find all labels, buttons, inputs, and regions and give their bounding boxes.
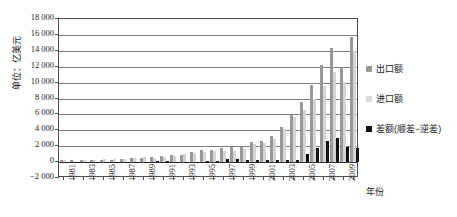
x-tick-mark xyxy=(113,177,114,180)
y-tick-label: −2 000 xyxy=(6,171,54,181)
x-tick-mark xyxy=(243,177,244,180)
x-tick-mark xyxy=(293,177,294,180)
x-tick-mark xyxy=(203,177,204,180)
x-tick-mark xyxy=(63,177,64,180)
bar-group xyxy=(169,19,179,176)
y-tick-label: 18 000 xyxy=(6,12,54,22)
x-tick-label: 2003 xyxy=(287,164,297,181)
bar-group xyxy=(229,19,239,176)
x-tick-mark xyxy=(353,177,354,180)
x-tick-mark xyxy=(133,177,134,180)
bar-group xyxy=(299,19,309,176)
balance-swatch xyxy=(366,126,372,132)
legend-label-import: 进口额 xyxy=(376,92,403,105)
bar-group xyxy=(349,19,359,176)
legend-item-balance: 差额(顺差−逆差) xyxy=(366,122,441,135)
x-tick-label: 1983 xyxy=(87,164,97,181)
y-tick-label: 0 xyxy=(6,155,54,165)
x-tick-label: 2007 xyxy=(327,164,337,181)
x-tick-mark xyxy=(263,177,264,180)
bar-import xyxy=(353,51,356,162)
x-tick-label: 1999 xyxy=(247,164,257,181)
bar-group xyxy=(249,19,259,176)
x-tick-mark xyxy=(103,177,104,180)
bar-import xyxy=(183,154,186,162)
x-tick-label: 1995 xyxy=(207,164,217,181)
x-tick-label: 2001 xyxy=(267,164,277,181)
bar-balance xyxy=(356,148,359,162)
x-tick-mark xyxy=(163,177,164,180)
bar-group xyxy=(289,19,299,176)
bar-group xyxy=(119,19,129,176)
bar-group xyxy=(149,19,159,176)
bar-series-container xyxy=(59,19,357,176)
x-tick-mark xyxy=(193,177,194,180)
bar-group xyxy=(129,19,139,176)
x-axis-title: 年份 xyxy=(366,185,384,198)
x-tick-mark xyxy=(343,177,344,180)
bar-group xyxy=(279,19,289,176)
bar-group xyxy=(139,19,149,176)
bar-import xyxy=(263,143,266,162)
x-tick-label: 1991 xyxy=(167,164,177,181)
bar-group xyxy=(199,19,209,176)
import-swatch xyxy=(366,96,372,102)
x-tick-mark xyxy=(123,177,124,180)
y-tick-label: 16 000 xyxy=(6,28,54,38)
x-tick-label: 1997 xyxy=(227,164,237,181)
x-tick-mark xyxy=(223,177,224,180)
x-tick-mark xyxy=(173,177,174,180)
bar-group xyxy=(89,19,99,176)
bar-group xyxy=(239,19,249,176)
x-tick-mark xyxy=(283,177,284,180)
x-tick-mark xyxy=(213,177,214,180)
bar-import xyxy=(283,129,286,162)
x-tick-label: 2009 xyxy=(347,164,357,181)
y-tick-label: 6 000 xyxy=(6,107,54,117)
x-tick-mark xyxy=(73,177,74,180)
bar-group xyxy=(309,19,319,176)
x-tick-label: 1981 xyxy=(67,164,77,181)
bar-group xyxy=(179,19,189,176)
y-tick-label: 2 000 xyxy=(6,139,54,149)
x-tick-mark xyxy=(183,177,184,180)
bar-import xyxy=(293,117,296,162)
bar-group xyxy=(319,19,329,176)
y-tick-label: 14 000 xyxy=(6,44,54,54)
y-tick-label: 8 000 xyxy=(6,92,54,102)
bar-group xyxy=(109,19,119,176)
bar-group xyxy=(189,19,199,176)
bar-group xyxy=(339,19,349,176)
bar-group xyxy=(99,19,109,176)
y-tick-label: 12 000 xyxy=(6,60,54,70)
x-tick-mark xyxy=(83,177,84,180)
bar-group xyxy=(59,19,69,176)
x-tick-mark xyxy=(333,177,334,180)
bar-group xyxy=(219,19,229,176)
bar-group xyxy=(69,19,79,176)
x-tick-label: 1987 xyxy=(127,164,137,181)
x-tick-mark xyxy=(253,177,254,180)
bar-group xyxy=(329,19,339,176)
bar-group xyxy=(79,19,89,176)
x-tick-label: 1985 xyxy=(107,164,117,181)
x-tick-label: 1989 xyxy=(147,164,157,181)
x-tick-mark xyxy=(93,177,94,180)
y-tick-label: 10 000 xyxy=(6,76,54,86)
x-tick-mark xyxy=(273,177,274,180)
legend-item-import: 进口额 xyxy=(366,92,441,105)
x-tick-mark xyxy=(143,177,144,180)
bar-import xyxy=(273,139,276,162)
chart-legend: 出口额 进口额 差额(顺差−逆差) xyxy=(366,62,441,152)
y-tick-mark xyxy=(55,177,59,178)
x-tick-label: 1993 xyxy=(187,164,197,181)
bar-group xyxy=(159,19,169,176)
x-tick-mark xyxy=(323,177,324,180)
export-swatch xyxy=(366,66,372,72)
legend-item-export: 出口额 xyxy=(366,62,441,75)
x-tick-label: 2005 xyxy=(307,164,317,181)
plot-area xyxy=(58,18,358,177)
legend-label-export: 出口额 xyxy=(376,62,403,75)
chart-figure: 单位：亿美元 18 00016 00014 00012 00010 0008 0… xyxy=(0,0,457,217)
y-tick-label: 4 000 xyxy=(6,123,54,133)
